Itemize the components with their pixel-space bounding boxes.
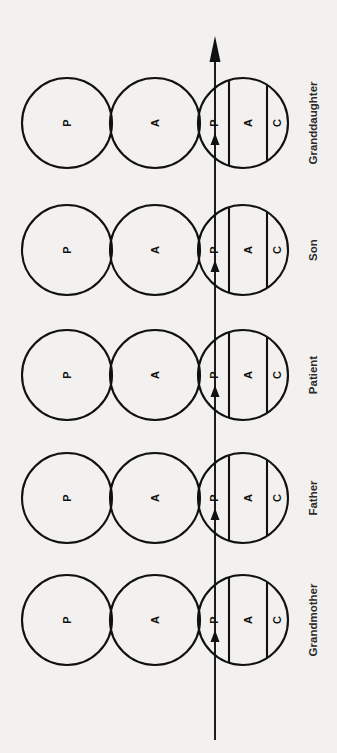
group-4-letter-A: A xyxy=(149,119,161,127)
group-2-segment-C: C xyxy=(271,371,283,379)
group-1-letter-A: A xyxy=(149,494,161,502)
group-3-letter-A: A xyxy=(149,246,161,254)
group-1-segment-A: A xyxy=(242,494,254,502)
group-4-segment-P: P xyxy=(208,119,220,126)
diagram-canvas: PAPACGrandmotherPAPACFatherPAPACPatientP… xyxy=(0,0,337,753)
group-label-4: Granddaughter xyxy=(307,81,319,165)
group-2-arrow-marker xyxy=(211,385,220,397)
group-1-segment-P: P xyxy=(208,494,220,501)
group-4-letter-P: P xyxy=(61,119,73,126)
group-3-segment-P: P xyxy=(208,246,220,253)
group-3-arrow-marker xyxy=(211,260,220,272)
group-label-2: Patient xyxy=(307,356,319,395)
group-2-segment-P: P xyxy=(208,371,220,378)
group-0-segment-C: C xyxy=(271,616,283,624)
group-granddaughter: PAPAC xyxy=(22,78,288,168)
group-1-arrow-marker xyxy=(211,508,220,520)
group-1-letter-P: P xyxy=(61,494,73,501)
group-1-segment-C: C xyxy=(271,494,283,502)
pedigree-diagram: PAPACGrandmotherPAPACFatherPAPACPatientP… xyxy=(0,0,337,753)
group-2-segment-A: A xyxy=(242,371,254,379)
group-label-0: Grandmother xyxy=(307,583,319,656)
group-2-letter-A: A xyxy=(149,371,161,379)
group-4-segment-A: A xyxy=(242,119,254,127)
group-3-segment-A: A xyxy=(242,246,254,254)
group-4-segment-C: C xyxy=(271,119,283,127)
group-0-letter-A: A xyxy=(149,616,161,624)
group-4-arrow-marker xyxy=(211,133,220,145)
group-grandmother: PAPAC xyxy=(22,575,288,665)
group-3-letter-P: P xyxy=(61,246,73,253)
group-label-1: Father xyxy=(307,480,319,516)
group-0-letter-P: P xyxy=(61,616,73,623)
group-0-arrow-marker xyxy=(211,630,220,642)
group-son: PAPAC xyxy=(22,205,288,295)
group-2-letter-P: P xyxy=(61,371,73,378)
group-0-segment-A: A xyxy=(242,616,254,624)
diagram-body: PAPACGrandmotherPAPACFatherPAPACPatientP… xyxy=(22,36,319,740)
group-label-3: Son xyxy=(307,239,319,261)
time-axis-arrowhead xyxy=(210,36,221,62)
group-3-segment-C: C xyxy=(271,246,283,254)
group-0-segment-P: P xyxy=(208,616,220,623)
group-father: PAPAC xyxy=(22,453,288,543)
group-patient: PAPAC xyxy=(22,330,288,420)
